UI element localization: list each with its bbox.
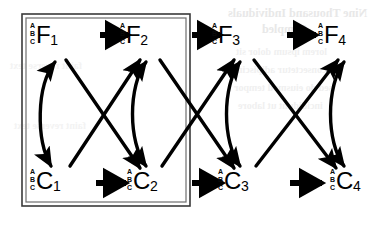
vertical-bidirectional-arcs xyxy=(40,62,344,166)
arc-f2-c2 xyxy=(133,62,147,166)
diagonal-crossing-arrows xyxy=(66,60,338,168)
node-c3[interactable]: A B C C 3 xyxy=(218,168,249,194)
diagram-canvas: Nine Thousand Individuals Sampled lorem … xyxy=(0,0,382,238)
node-c4-prefix: A B C xyxy=(330,168,335,194)
arc-f3-c3 xyxy=(227,62,241,166)
node-c3-index: 3 xyxy=(241,178,249,194)
node-c2-prefix: A B C xyxy=(127,168,132,194)
node-c4-letter: C xyxy=(336,169,353,193)
node-f4-letter: F xyxy=(324,23,338,47)
node-c4[interactable]: A B C C 4 xyxy=(330,168,361,194)
arc-f1-c1 xyxy=(40,62,55,166)
node-c2-letter: C xyxy=(133,169,150,193)
node-c1-prefix: A B C xyxy=(30,168,35,194)
node-f2[interactable]: A B C F 2 xyxy=(120,22,148,48)
node-f3-letter: F xyxy=(218,23,232,47)
node-f1-index: 1 xyxy=(50,32,58,48)
node-c3-letter: C xyxy=(224,169,241,193)
node-c1[interactable]: A B C C 1 xyxy=(30,168,61,194)
node-f2-letter: F xyxy=(126,23,140,47)
node-f2-index: 2 xyxy=(140,32,148,48)
node-c1-index: 1 xyxy=(53,178,61,194)
node-c2[interactable]: A B C C 2 xyxy=(127,168,158,194)
node-f2-prefix: A B C xyxy=(120,22,125,48)
node-f1-prefix: A B C xyxy=(30,22,35,48)
node-f4-prefix: A B C xyxy=(318,22,323,48)
node-f1-letter: F xyxy=(36,23,50,47)
node-f3-prefix: A B C xyxy=(212,22,217,48)
node-f4[interactable]: A B C F 4 xyxy=(318,22,346,48)
node-f1[interactable]: A B C F 1 xyxy=(30,22,58,48)
node-f3-index: 3 xyxy=(232,32,240,48)
node-f3[interactable]: A B C F 3 xyxy=(212,22,240,48)
node-c4-index: 4 xyxy=(353,178,361,194)
node-c3-prefix: A B C xyxy=(218,168,223,194)
node-c1-letter: C xyxy=(36,169,53,193)
node-c2-index: 2 xyxy=(150,178,158,194)
node-f4-index: 4 xyxy=(338,32,346,48)
arc-f4-c4 xyxy=(331,62,345,166)
arrow-c3-f4 xyxy=(256,60,338,166)
